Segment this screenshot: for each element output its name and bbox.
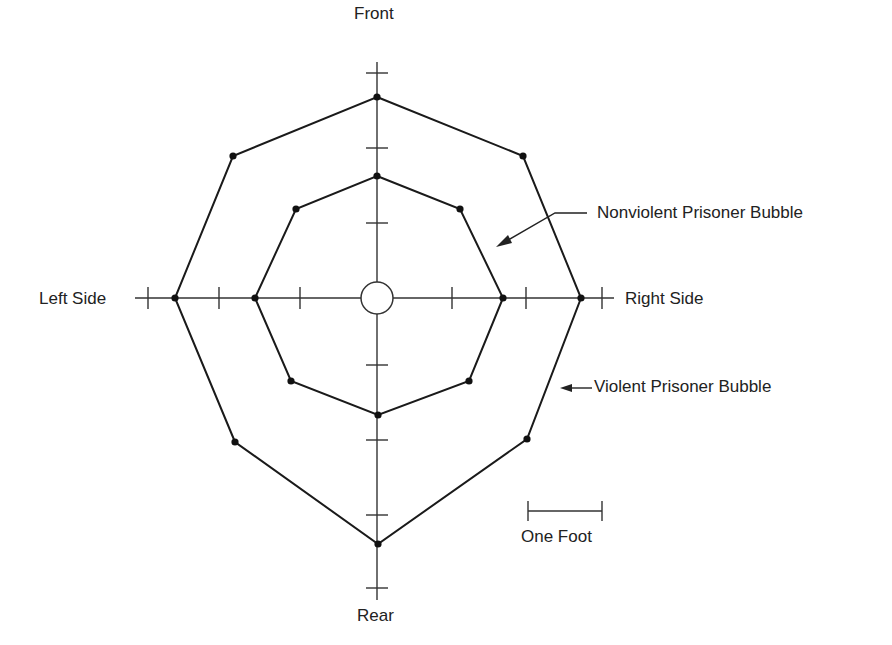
violent-pointer-arrow-icon <box>560 384 592 392</box>
prisoner-center-marker <box>361 282 393 314</box>
violent-bubble-vertices <box>171 93 584 547</box>
left-side-label: Left Side <box>39 289 106 309</box>
one-foot-scale-bar <box>528 501 602 521</box>
front-label: Front <box>354 4 394 24</box>
right-side-label: Right Side <box>625 289 703 309</box>
prisoner-bubble-diagram <box>0 0 892 645</box>
scale-bar-label: One Foot <box>521 527 592 547</box>
axes <box>135 62 614 600</box>
violent-bubble-label: Violent Prisoner Bubble <box>594 377 771 397</box>
violent-prisoner-bubble <box>175 97 581 544</box>
nonviolent-pointer-arrow-icon <box>496 213 587 247</box>
nonviolent-bubble-label: Nonviolent Prisoner Bubble <box>597 203 803 223</box>
rear-label: Rear <box>357 606 394 626</box>
